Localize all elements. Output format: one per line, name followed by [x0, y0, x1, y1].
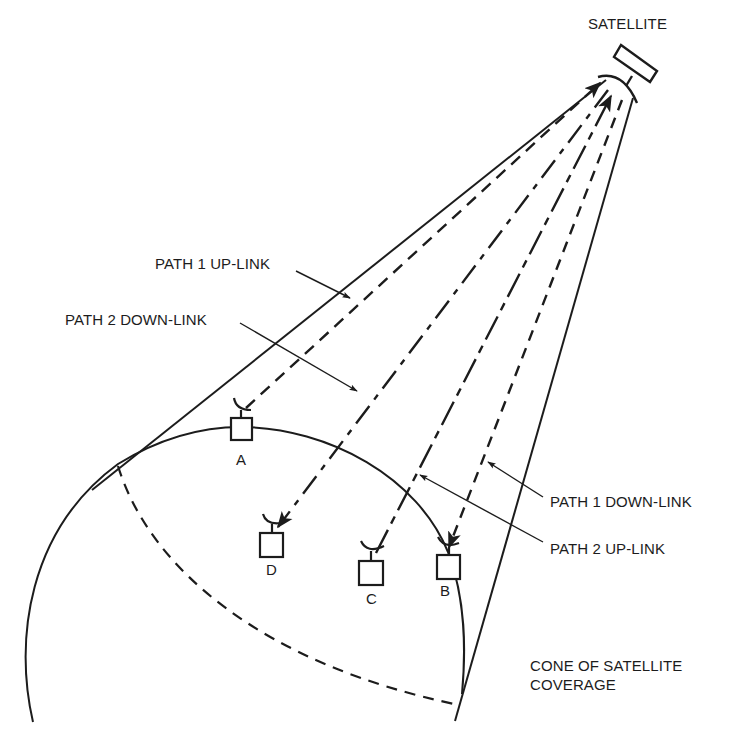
coverage-boundary-dashed — [118, 466, 459, 705]
path1-downlink-line — [449, 100, 622, 547]
path2-downlink-label: PATH 2 DOWN-LINK — [65, 311, 207, 328]
satellite-diagram: SATELLITE PATH 1 UP-LINK PATH 2 DOWN-LIN… — [0, 0, 733, 743]
station-a-label: A — [236, 451, 246, 468]
coverage-cone — [92, 80, 633, 721]
station-b-label: B — [440, 582, 450, 599]
path2-downlink-line — [278, 90, 608, 527]
satellite-icon — [598, 45, 657, 103]
diagram-drawing — [0, 0, 733, 743]
station-d — [260, 514, 283, 557]
leader-path1-uplink — [296, 271, 350, 298]
station-b — [437, 537, 460, 579]
path1-uplink-label: PATH 1 UP-LINK — [155, 255, 270, 272]
satellite-label: SATELLITE — [588, 15, 667, 32]
leader-path1-downlink — [488, 462, 543, 497]
station-d-label: D — [266, 561, 277, 578]
path2-uplink-label: PATH 2 UP-LINK — [550, 540, 665, 557]
path1-downlink-label: PATH 1 DOWN-LINK — [550, 493, 692, 510]
label-leaders — [240, 271, 543, 542]
cone-coverage-label-line2: COVERAGE — [530, 676, 616, 693]
path2-uplink-line — [376, 96, 611, 553]
path1-uplink-line — [246, 83, 600, 408]
station-c-label: C — [366, 590, 377, 607]
cone-coverage-label-line1: CONE OF SATELLITE — [530, 657, 682, 674]
station-c — [359, 541, 384, 585]
earth-surface-arc — [26, 427, 465, 722]
